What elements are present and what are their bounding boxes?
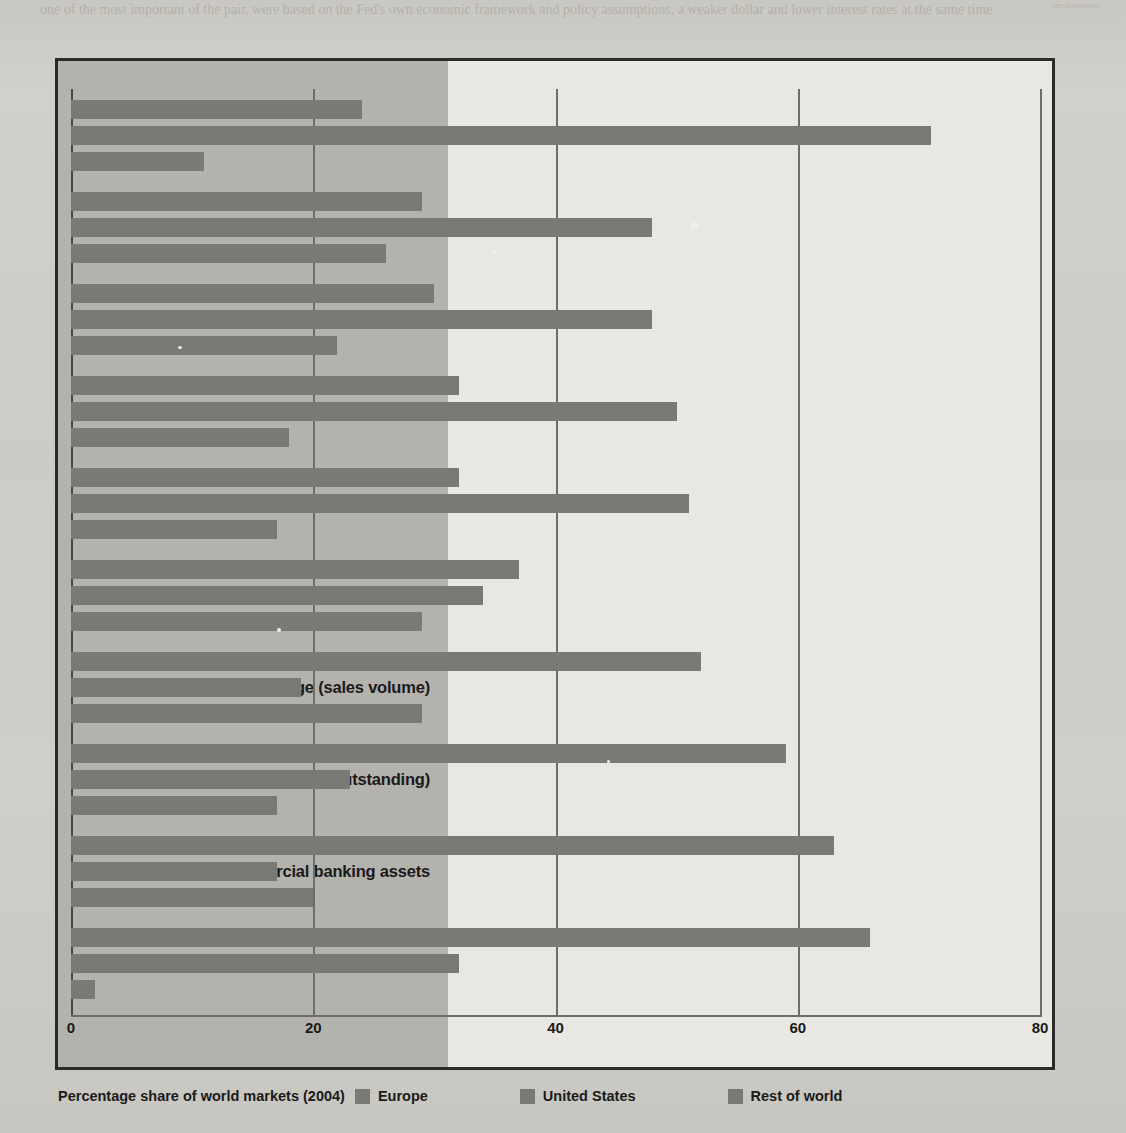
bar-track [71, 520, 1040, 539]
legend-swatch [520, 1089, 535, 1104]
bar-track [71, 836, 1040, 855]
x-axis-line [71, 1015, 1041, 1017]
bar-europe [71, 100, 362, 119]
bar-track [71, 310, 1040, 329]
bar-track [71, 376, 1040, 395]
bar-rest-of-world [71, 888, 313, 907]
bar-track [71, 126, 1040, 145]
bar-track [71, 888, 1040, 907]
bar-rest-of-world [71, 704, 422, 723]
bar-united-states [71, 770, 350, 789]
bar-united-states [71, 678, 301, 697]
bar-track [71, 244, 1040, 263]
bar-europe [71, 744, 786, 763]
bar-track [71, 862, 1040, 881]
x-axis-tick-labels: 020406080 [71, 1019, 1040, 1043]
bar-group [71, 733, 1040, 825]
bar-track [71, 336, 1040, 355]
bar-track [71, 678, 1040, 697]
bar-track [71, 954, 1040, 973]
legend-label: Europe [378, 1088, 428, 1104]
x-tick-label: 20 [305, 1019, 322, 1036]
bar-track [71, 796, 1040, 815]
bar-group [71, 273, 1040, 365]
legend-label: Rest of world [751, 1088, 843, 1104]
bar-united-states [71, 218, 652, 237]
bar-rest-of-world [71, 612, 422, 631]
x-tick-label: 0 [67, 1019, 75, 1036]
bar-rest-of-world [71, 244, 386, 263]
plot-inner: 020406080 [71, 89, 1040, 1009]
bar-track [71, 284, 1040, 303]
legend-swatch [355, 1089, 370, 1104]
x-tick-label: 60 [789, 1019, 806, 1036]
bar-track [71, 428, 1040, 447]
bar-united-states [71, 494, 689, 513]
bar-track [71, 704, 1040, 723]
bar-track [71, 494, 1040, 513]
bar-track [71, 192, 1040, 211]
bar-group [71, 917, 1040, 1009]
bar-united-states [71, 586, 483, 605]
bar-track [71, 468, 1040, 487]
bar-rest-of-world [71, 796, 277, 815]
bar-rest-of-world [71, 428, 289, 447]
chart-legend: Percentage share of world markets (2004)… [58, 1084, 1068, 1108]
legend-title: Percentage share of world markets (2004) [58, 1088, 345, 1104]
bar-united-states [71, 954, 459, 973]
bar-track [71, 744, 1040, 763]
bar-track [71, 152, 1040, 171]
bar-track [71, 586, 1040, 605]
bar-rest-of-world [71, 336, 337, 355]
bar-group [71, 457, 1040, 549]
bar-groups [71, 89, 1040, 1009]
bar-europe [71, 376, 459, 395]
legend-label: United States [543, 1088, 636, 1104]
bar-europe [71, 652, 701, 671]
bar-europe [71, 192, 422, 211]
bar-track [71, 100, 1040, 119]
bar-track [71, 612, 1040, 631]
bar-track [71, 980, 1040, 999]
bar-united-states [71, 862, 277, 881]
bar-group [71, 365, 1040, 457]
legend-item-rest-of-world: Rest of world [728, 1088, 843, 1104]
bar-europe [71, 836, 834, 855]
bar-europe [71, 468, 459, 487]
x-tick-label: 80 [1032, 1019, 1049, 1036]
bar-track [71, 652, 1040, 671]
bar-group [71, 825, 1040, 917]
bar-europe [71, 928, 870, 947]
bar-track [71, 770, 1040, 789]
bar-united-states [71, 126, 931, 145]
bar-track [71, 402, 1040, 421]
bar-group [71, 89, 1040, 181]
legend-item-united-states: United States [520, 1088, 636, 1104]
bar-united-states [71, 402, 677, 421]
bar-europe [71, 560, 519, 579]
bar-rest-of-world [71, 152, 204, 171]
legend-swatch [728, 1089, 743, 1104]
bar-rest-of-world [71, 980, 95, 999]
bar-track [71, 928, 1040, 947]
x-tick-label: 40 [547, 1019, 564, 1036]
bar-europe [71, 284, 434, 303]
bar-track [71, 560, 1040, 579]
bar-rest-of-world [71, 520, 277, 539]
bar-united-states [71, 310, 652, 329]
bar-group [71, 641, 1040, 733]
chart-figure: Hedge fund assets under managementInvest… [55, 58, 1055, 1070]
bar-group [71, 181, 1040, 273]
bar-group [71, 549, 1040, 641]
legend-item-europe: Europe [355, 1088, 428, 1104]
bar-track [71, 218, 1040, 237]
